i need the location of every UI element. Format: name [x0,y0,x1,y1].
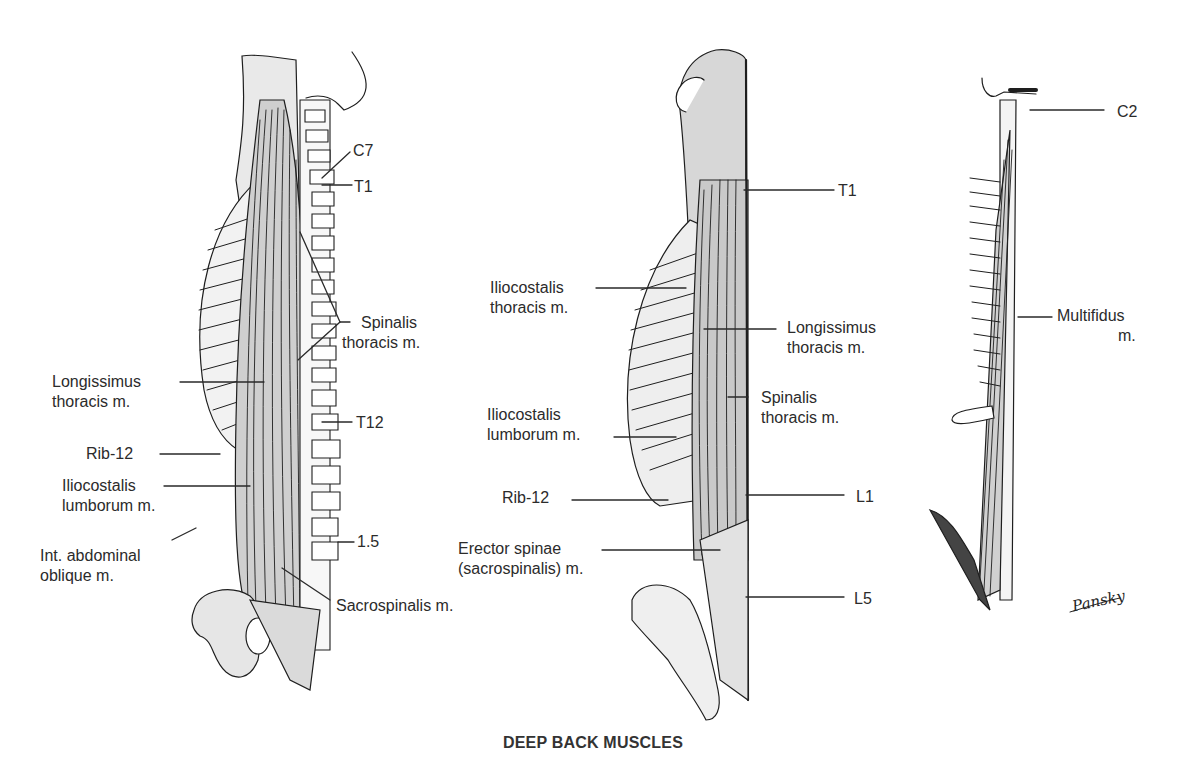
label-l5: L5 [854,589,872,608]
label-iliocostalis-thoracis-line1: Iliocostalis [490,278,564,297]
middle-figure-drawing [628,50,749,720]
label-longissimus-thoracis-line1: Longissimus [52,372,141,391]
label-spinalis-thoracis-line2: thoracis m. [342,333,420,352]
label-t12: T12 [356,413,384,432]
label-iliocostalis-thoracis-line2: thoracis m. [490,298,568,317]
label-l5-left: 1.5 [357,532,379,551]
label-int-abdominal-oblique-line1: Int. abdominal [40,546,141,565]
right-figure-drawing [930,78,1036,610]
label-spinalis-thoracis-middle-line1: Spinalis [761,388,817,407]
anatomy-illustration [0,0,1186,770]
label-longissimus-thoracis-middle-line1: Longissimus [787,318,876,337]
label-multifidus-line1: Multifidus [1057,306,1125,325]
label-spinalis-thoracis-middle-line2: thoracis m. [761,408,839,427]
label-iliocostalis-lumborum-middle-line2: lumborum m. [487,425,580,444]
label-l1: L1 [856,487,874,506]
left-figure-drawing [192,52,366,690]
label-t1-middle: T1 [838,181,857,200]
label-erector-spinae-line2: (sacrospinalis) m. [458,559,583,578]
label-multifidus-line2: m. [1118,326,1136,345]
label-iliocostalis-lumborum-line1: Iliocostalis [62,476,136,495]
label-iliocostalis-lumborum-middle-line1: Iliocostalis [487,405,561,424]
label-t1: T1 [354,177,373,196]
label-longissimus-thoracis-line2: thoracis m. [52,392,130,411]
label-erector-spinae-line1: Erector spinae [458,539,561,558]
label-int-abdominal-oblique-line2: oblique m. [40,566,114,585]
label-sacrospinalis: Sacrospinalis m. [336,596,453,615]
label-c7: C7 [353,141,373,160]
label-rib-12-middle: Rib-12 [502,488,549,507]
figure-title: DEEP BACK MUSCLES [0,734,1186,752]
label-longissimus-thoracis-middle-line2: thoracis m. [787,338,865,357]
label-rib-12: Rib-12 [86,444,133,463]
label-iliocostalis-lumborum-line2: lumborum m. [62,496,155,515]
label-c2: C2 [1117,102,1137,121]
label-spinalis-thoracis-line1: Spinalis [361,313,417,332]
